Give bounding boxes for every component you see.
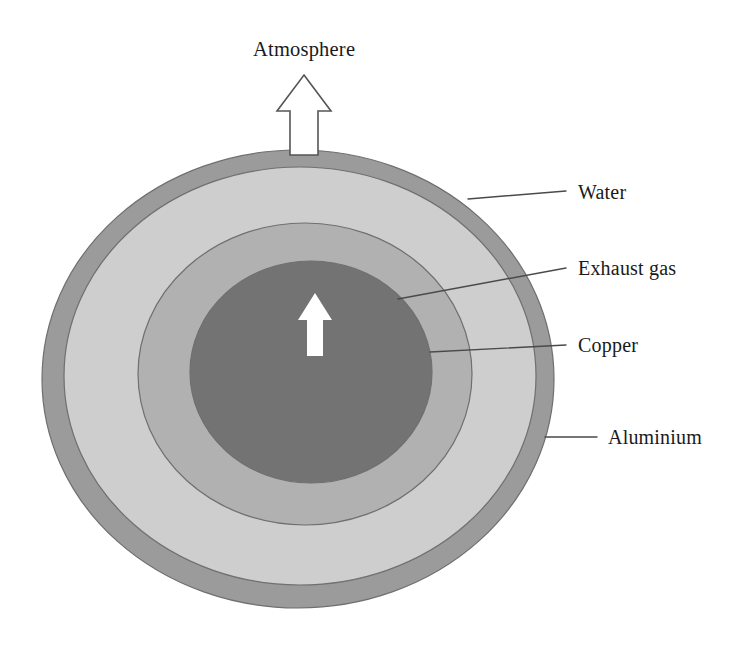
label-copper: Copper	[578, 334, 638, 357]
diagram-root: Atmosphere Water Exhaust gas Copper Alum…	[0, 0, 747, 645]
cross-section-figure: Atmosphere Water Exhaust gas Copper Alum…	[0, 0, 747, 645]
label-atmosphere: Atmosphere	[253, 38, 355, 61]
layer-exhaust-gas	[190, 261, 432, 483]
label-water: Water	[578, 181, 626, 203]
concentric-layers	[42, 150, 554, 608]
label-exhaust-gas: Exhaust gas	[578, 257, 676, 280]
label-aluminium: Aluminium	[608, 426, 702, 448]
